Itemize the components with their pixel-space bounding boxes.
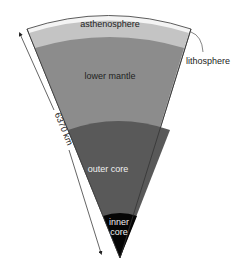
lower-mantle-label: lower mantle bbox=[84, 71, 135, 81]
asthenosphere-label: asthenosphere bbox=[80, 19, 140, 29]
inner-core-label-line1: inner bbox=[109, 217, 129, 227]
lithosphere-pointer bbox=[191, 32, 203, 52]
outer-core-label: outer core bbox=[88, 164, 129, 174]
earth-cross-section-diagram: asthenosphere lower mantle outer core in… bbox=[0, 0, 241, 271]
inner-core-label-line2: core bbox=[110, 227, 128, 237]
lithosphere-label: lithosphere bbox=[186, 56, 230, 66]
